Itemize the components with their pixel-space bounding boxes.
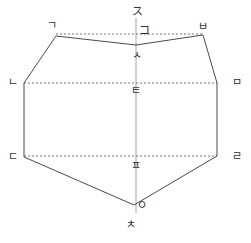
polygon-figure	[0, 0, 251, 243]
label-siot-notch-center: ㅅ	[132, 50, 142, 61]
label-kieuk-top-center: コ	[139, 25, 150, 36]
label-rieul-low-right: ㄹ	[232, 151, 242, 162]
label-mieum-mid-right: ㅁ	[232, 77, 242, 88]
label-pieup-low-center: ㅍ	[131, 160, 141, 171]
octagon-outline	[24, 35, 217, 205]
label-giyeok-top-left: ㄱ	[47, 20, 57, 31]
label-chieut-bottom-axis: ㅊ	[126, 219, 136, 230]
diagram-canvas: スコㄱㅂㅅㄴㅁㅌㄷㄹㅍㅇㅊ	[0, 0, 251, 243]
label-tieut-mid-center: ㅌ	[131, 85, 141, 96]
label-bieup-top-right: ㅂ	[198, 21, 208, 32]
label-ieung-bottom-apex: ㅇ	[137, 200, 147, 211]
label-nieun-mid-left: ㄴ	[8, 77, 18, 88]
label-jieut-top-axis: ス	[132, 6, 143, 17]
label-digeut-low-left: ㄷ	[8, 151, 18, 162]
